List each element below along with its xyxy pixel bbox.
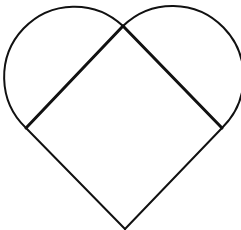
heart-diagram xyxy=(0,0,241,230)
square-edge-top-right xyxy=(123,26,222,128)
square-edge-top-left xyxy=(26,26,123,128)
right-semicircle xyxy=(123,6,241,128)
left-semicircle xyxy=(4,7,123,128)
square-edge-bottom-left xyxy=(26,128,125,229)
heart-figure xyxy=(0,0,241,230)
square-edge-bottom-right xyxy=(125,128,222,229)
